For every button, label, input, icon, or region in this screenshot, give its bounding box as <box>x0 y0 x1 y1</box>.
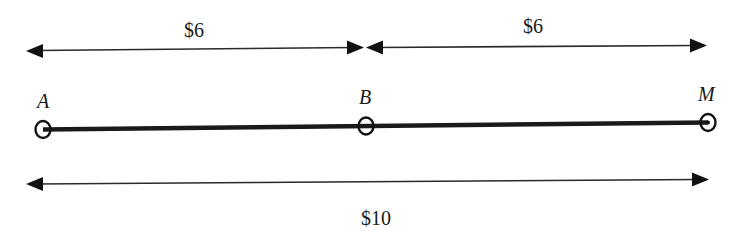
arrowhead-left-icon <box>26 177 43 191</box>
distance-arrow-total <box>26 173 709 192</box>
distance-label-b-m: $6 <box>523 15 543 37</box>
distance-label-total: $10 <box>361 207 391 229</box>
main-segment-a-m <box>43 123 708 130</box>
arrowhead-right-icon <box>692 173 709 187</box>
distance-label-a-b: $6 <box>184 19 204 41</box>
arrowhead-left-icon <box>26 44 43 58</box>
point-label-m: M <box>697 83 716 105</box>
point-label-a: A <box>35 90 50 112</box>
segment-diagram: $6 $6 A B M $10 <box>0 0 747 247</box>
arrowhead-right-icon <box>347 41 364 55</box>
point-label-b: B <box>359 86 371 108</box>
arrowhead-right-icon <box>690 39 707 53</box>
distance-arrow-b-to-m <box>366 39 707 55</box>
arrowhead-left-icon <box>366 41 383 55</box>
distance-arrow-a-to-b <box>26 41 364 59</box>
